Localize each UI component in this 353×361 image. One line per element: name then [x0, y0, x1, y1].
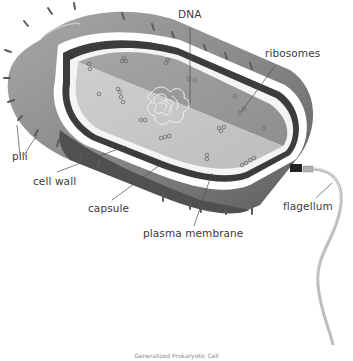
label-dna: DNA [178, 8, 201, 20]
label-capsule: capsule [88, 202, 129, 214]
flagellum [290, 164, 341, 345]
diagram-caption: Generalized Prokaryotic Cell [0, 352, 353, 359]
label-plasma-membrane: plasma membrane [143, 227, 243, 239]
label-pili: pili [12, 150, 28, 162]
label-ribosomes: ribosomes [265, 47, 320, 59]
label-cell-wall: cell wall [33, 175, 76, 187]
label-flagellum: flagellum [283, 200, 333, 212]
